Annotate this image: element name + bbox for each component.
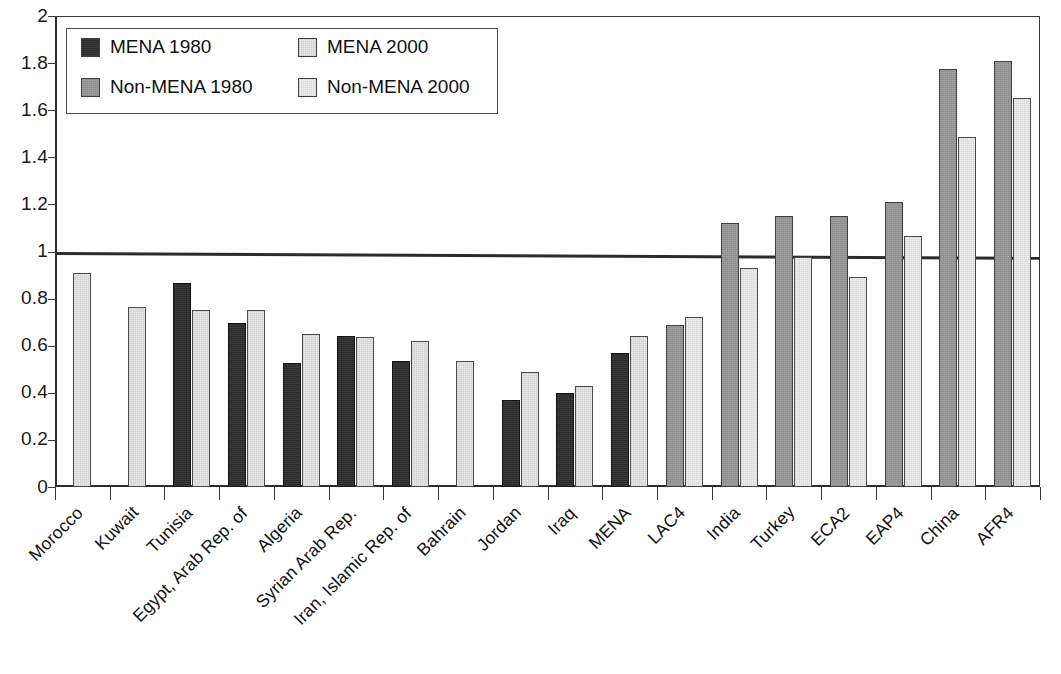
legend-item-mena-1980: MENA 1980 [81,38,298,57]
y-axis-tick-label: 1.4 [21,147,55,166]
bar [302,334,320,487]
bar-group [876,16,931,487]
y-axis-tick-mark [48,63,55,64]
y-axis-tick-mark [48,157,55,158]
bar [337,336,355,487]
bar [775,216,793,487]
legend-row: Non-MENA 1980 Non-MENA 2000 [81,78,485,118]
y-axis-tick-mark [48,204,55,205]
bar [885,202,903,487]
legend-swatch-icon [81,38,100,57]
bar-group [602,16,657,487]
bar-group [985,16,1040,487]
x-axis-label: China [917,504,962,549]
bar [192,310,210,487]
x-axis-label: Algeria [254,504,305,555]
x-axis-label: Bahrain [414,504,470,560]
x-axis-label: India [704,504,744,544]
bar [411,341,429,487]
legend-label: Non-MENA 2000 [327,77,470,96]
chart-figure: 21.81.61.41.210.80.60.40.20 MoroccoKuwai… [0,0,1061,674]
legend-swatch-icon [298,78,317,97]
bar [73,273,91,487]
footer-caption [8,665,1048,674]
bar [849,277,867,487]
bar-group [766,16,821,487]
x-axis-labels: MoroccoKuwaitTunisiaEgypt, Arab Rep. ofA… [0,498,1061,658]
y-axis-tick-label: 1 [37,241,55,260]
bar [521,372,539,487]
x-axis-label: Syrian Arab Rep. [253,504,360,611]
x-axis-label: LAC4 [645,504,689,548]
bar [128,307,146,487]
bar [556,393,574,487]
y-axis-tick-mark [48,487,55,488]
bar [356,337,374,487]
y-axis-tick-label: 1.8 [21,53,55,72]
bar [228,323,246,487]
y-axis-tick-label: 1.6 [21,100,55,119]
y-axis-tick-label: 0 [37,477,55,496]
bar [502,400,520,487]
y-axis-tick-label: 0.6 [21,335,55,354]
y-axis: 21.81.61.41.210.80.60.40.20 [0,0,55,503]
y-axis-tick-label: 0.8 [21,288,55,307]
bar-group [931,16,986,487]
bar [611,353,629,487]
bar [994,61,1012,487]
bar [173,283,191,487]
legend-label: MENA 1980 [110,37,211,56]
bar [630,336,648,487]
legend-item-mena-2000: MENA 2000 [298,38,485,57]
y-axis-tick-mark [48,16,55,17]
y-axis-tick-mark [48,110,55,111]
legend-swatch-icon [298,38,317,57]
y-axis-tick-mark [48,440,55,441]
bar [247,310,265,487]
bar [1013,98,1031,487]
bar [666,325,684,487]
x-axis-label: Iraq [545,504,579,538]
legend-label: MENA 2000 [327,37,428,56]
x-axis-label: EAP4 [863,504,907,548]
bar [685,317,703,487]
bar [830,216,848,487]
bar [392,361,410,487]
legend-label: Non-MENA 1980 [110,77,253,96]
legend-item-non-mena-2000: Non-MENA 2000 [298,78,485,97]
x-axis-label: Kuwait [92,504,142,554]
y-axis-tick-mark [48,346,55,347]
y-axis-tick-mark [48,299,55,300]
chart-legend: MENA 1980 MENA 2000 Non-MENA 1980 Non-ME… [66,28,498,114]
legend-row: MENA 1980 MENA 2000 [81,38,485,78]
bar [740,268,758,487]
bar [721,223,739,487]
y-axis-tick-label: 1.2 [21,194,55,213]
bar [939,69,957,487]
bar-group [657,16,712,487]
legend-swatch-icon [81,78,100,97]
x-axis-label: MENA [586,504,634,552]
bar [456,361,474,487]
x-axis-label: Morocco [26,504,86,564]
y-axis-tick-label: 0.4 [21,382,55,401]
bar-group [548,16,603,487]
bar [958,137,976,487]
bar [283,363,301,487]
bar-group [712,16,767,487]
bar [794,257,812,487]
bar [575,386,593,487]
x-axis-label: ECA2 [808,504,853,549]
x-axis-label: AFR4 [973,504,1017,548]
y-axis-tick-label: 2 [37,6,55,25]
bar-group [821,16,876,487]
x-axis-label: Turkey [748,504,798,554]
y-axis-tick-mark [48,393,55,394]
y-axis-tick-label: 0.2 [21,429,55,448]
x-axis-label: Jordan [474,504,525,555]
legend-item-non-mena-1980: Non-MENA 1980 [81,78,298,97]
x-axis-label: Tunisia [144,504,196,556]
y-axis-tick-mark [48,252,55,253]
bar-group [493,16,548,487]
bar [904,236,922,487]
